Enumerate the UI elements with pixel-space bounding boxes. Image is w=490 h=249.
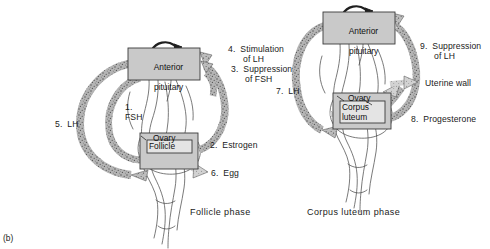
annotation-3-suppression-fsh-line1: 3. Suppression bbox=[231, 64, 292, 75]
right-pituitary-line2: pituitary bbox=[349, 46, 378, 56]
annotation-1-fsh-number: 1. bbox=[125, 102, 132, 113]
annotation-9-suppression-lh-line1: 9. Suppression bbox=[420, 41, 481, 52]
annotation-7-lh: 7. LH bbox=[276, 86, 300, 97]
panel-tag: (b) bbox=[3, 233, 13, 243]
caption-follicle-phase: Follicle phase bbox=[190, 207, 251, 217]
annotation-2-estrogen: 2. Estrogen bbox=[210, 140, 258, 151]
annotation-3-suppression-fsh-line2: of FSH bbox=[245, 74, 272, 85]
right-pituitary-box-label: Anterior pituitary bbox=[323, 16, 395, 66]
right-luteum-label: luteum bbox=[342, 112, 386, 122]
caption-corpus-luteum-phase: Corpus luteum phase bbox=[307, 207, 400, 217]
annotation-5-lh: 5. LH bbox=[55, 119, 79, 130]
left-pituitary-line2: pituitary bbox=[154, 82, 183, 92]
right-corpus-label: Corpus bbox=[342, 102, 386, 112]
left-follicle-label: Follicle bbox=[149, 141, 191, 151]
arrow-estrogen-2 bbox=[199, 52, 225, 150]
annotation-9-suppression-lh-line2: of LH bbox=[434, 51, 455, 62]
figure-container: Anterior pituitary Ovary Follicle 1. FSH… bbox=[0, 0, 490, 249]
right-pituitary-line1: Anterior bbox=[349, 26, 378, 36]
annotation-uterine-wall: Uterine wall bbox=[425, 78, 471, 89]
annotation-6-egg: 6. Egg bbox=[211, 168, 239, 179]
annotation-1-fsh-text: FSH bbox=[125, 112, 143, 123]
left-pituitary-box-label: Anterior pituitary bbox=[128, 52, 200, 102]
annotation-4-stimulation-lh-line1: 4. Stimulation bbox=[228, 44, 284, 55]
annotation-4-stimulation-lh-line2: of LH bbox=[243, 54, 264, 65]
left-pituitary-line1: Anterior bbox=[154, 62, 183, 72]
annotation-8-progesterone: 8. Progesterone bbox=[411, 114, 476, 125]
